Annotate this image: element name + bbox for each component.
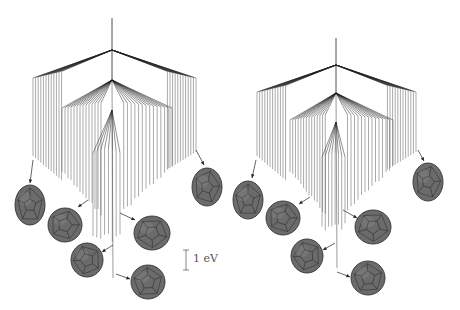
fullerene-cage-icon (48, 208, 82, 242)
branch-arrow (78, 200, 88, 207)
panel-right (233, 38, 443, 295)
fullerene-cage-icon (131, 265, 165, 299)
branch-arrow (116, 274, 130, 279)
fullerene-cage-icon (355, 210, 391, 244)
scale-bar-label: 1 eV (193, 252, 218, 265)
fullerene-cage-icon (351, 261, 385, 295)
fullerene-cage-icon (413, 163, 443, 201)
energy-tree-diagram (0, 0, 460, 310)
branch-arrow (418, 150, 424, 161)
branch-arrow (337, 272, 350, 277)
fullerene-cage-icon (266, 201, 300, 235)
fullerene-cage-icon (71, 243, 103, 277)
panel-left (15, 18, 222, 299)
scale-bar (183, 250, 189, 270)
fullerene-cage-icon (134, 216, 170, 250)
branch-arrow (196, 150, 204, 165)
fullerene-cage-icon (233, 181, 263, 219)
branch-arrow (102, 245, 113, 252)
diagram-panels (15, 18, 443, 299)
branch-arrow (120, 213, 135, 220)
fullerene-cage-icon (192, 168, 222, 206)
branch-arrow (29, 160, 33, 183)
branch-arrow (251, 160, 256, 178)
fullerene-cage-icon (15, 185, 45, 225)
branch-arrow (299, 197, 310, 204)
fullerene-cage-icon (291, 239, 323, 273)
branch-arrow (323, 243, 335, 250)
